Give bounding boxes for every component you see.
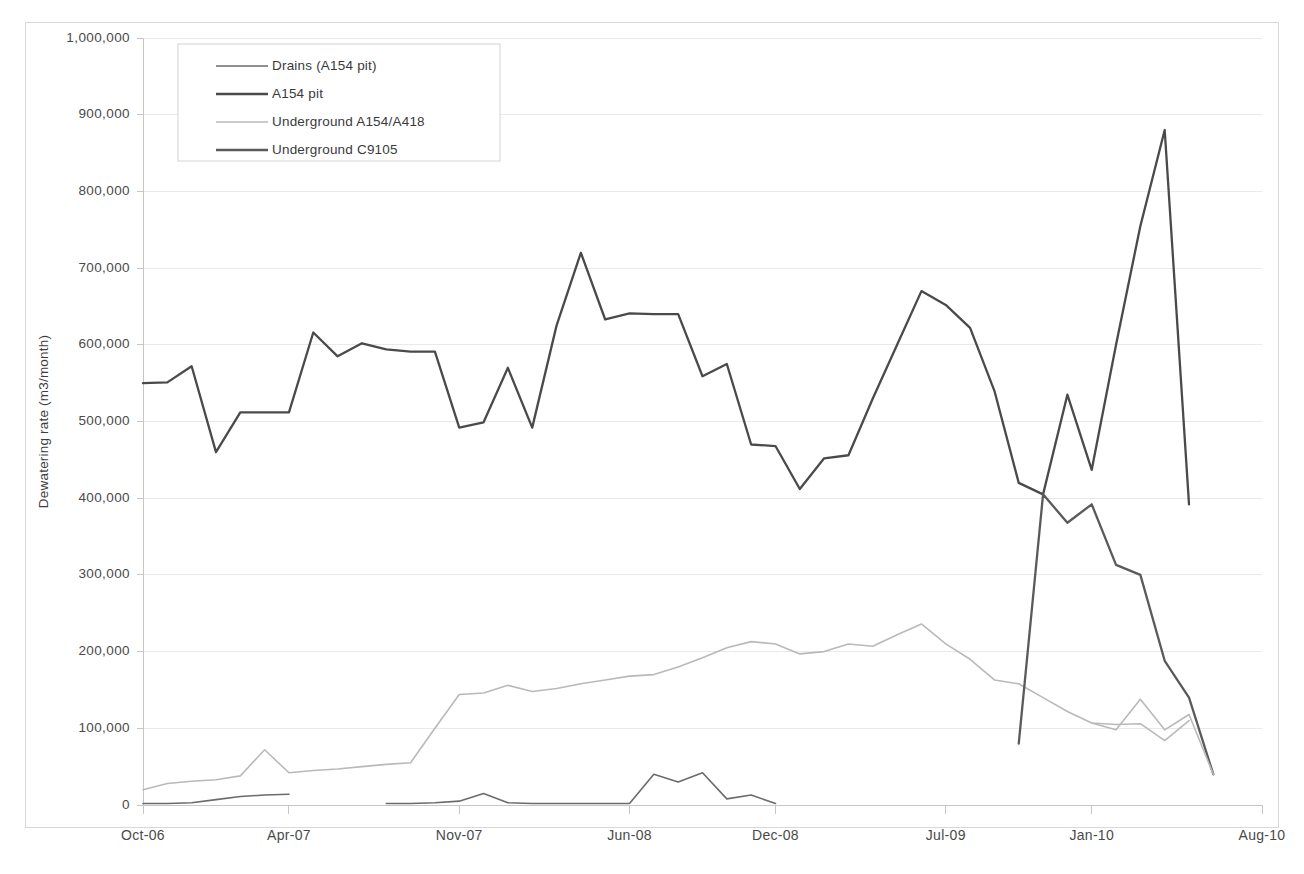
ytick-label-6: 600,000 [78,336,130,351]
ytick-label-3: 300,000 [78,566,130,581]
series-tail-0 [1092,699,1214,774]
ytick-label-2: 200,000 [78,643,130,658]
chart-legend: Drains (A154 pit)A154 pitUnderground A15… [178,44,500,161]
ytick-label-10: 1,000,000 [66,30,130,45]
ytick-label-8: 800,000 [78,183,130,198]
xtick-label-3: Jun-08 [607,827,652,843]
xtick-label-6: Jan-10 [1069,827,1114,843]
chart-plot-area: 0100,000200,000300,000400,000500,000600,… [0,0,1304,874]
ytick-label-7: 700,000 [78,260,130,275]
xtick-labels-group: Oct-06Apr-07Nov-07Jun-08Dec-08Jul-09Jan-… [121,827,1285,843]
xtick-label-4: Dec-08 [752,827,799,843]
ytick-label-5: 500,000 [78,413,130,428]
ytick-label-9: 900,000 [78,106,130,121]
xtick-label-2: Nov-07 [436,827,483,843]
ytick-label-1: 100,000 [78,720,130,735]
series-line-2 [143,624,1189,790]
xtick-label-1: Apr-07 [267,827,311,843]
xtick-label-0: Oct-06 [121,827,165,843]
legend-label-0: Drains (A154 pit) [272,58,377,73]
legend-label-2: Underground A154/A418 [272,114,425,129]
series-line-0 [143,773,775,804]
chart-container: 0100,000200,000300,000400,000500,000600,… [0,0,1304,874]
legend-label-3: Underground C9105 [272,142,398,157]
ytick-label-4: 400,000 [78,490,130,505]
legend-label-1: A154 pit [272,86,323,101]
xtick-label-5: Jul-09 [926,827,966,843]
series-line-1 [143,130,1189,504]
ytick-labels-group: 0100,000200,000300,000400,000500,000600,… [66,30,130,812]
series-group [143,130,1213,803]
y-axis-title: Dewatering rate (m3/month) [36,335,51,508]
xtick-label-7: Aug-10 [1239,827,1286,843]
ytick-label-0: 0 [122,797,130,812]
series-line-3 [1019,494,1214,774]
y-axis-title-text: Dewatering rate (m3/month) [36,335,51,508]
